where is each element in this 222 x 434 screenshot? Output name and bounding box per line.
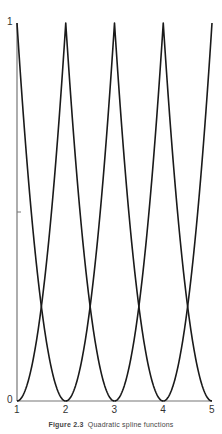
spline-chart [0, 0, 222, 434]
y-tick-label: 0 [7, 395, 13, 405]
x-tick-label: 1 [14, 405, 20, 415]
figure-caption: Figure 2.3 Quadratic spline functions [0, 421, 222, 428]
x-tick-label: 5 [209, 405, 215, 415]
x-tick-label: 2 [63, 405, 69, 415]
spline-curve-5 [163, 23, 212, 401]
y-tick-label: 1 [7, 17, 13, 27]
caption-text: Quadratic spline functions [88, 421, 174, 428]
x-tick-label: 3 [112, 405, 118, 415]
caption-label: Figure 2.3 [48, 421, 83, 428]
x-tick-label: 4 [160, 405, 166, 415]
spline-curve-1 [17, 23, 66, 401]
curves [17, 23, 212, 401]
